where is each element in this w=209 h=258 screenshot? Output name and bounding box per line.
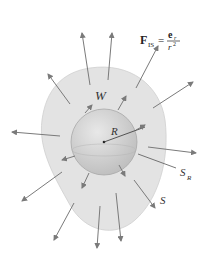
gauss-law-diagram: W R S R S F IS = e r r 2 — [0, 0, 209, 258]
outer-surface-label: S — [160, 194, 166, 206]
svg-text:F: F — [140, 33, 147, 47]
svg-text:=: = — [158, 34, 164, 46]
sphere-surface-sub: R — [186, 174, 192, 182]
svg-text:r: r — [168, 42, 172, 52]
svg-text:2: 2 — [173, 41, 176, 47]
radius-r-label: R — [110, 125, 118, 137]
svg-text:e: e — [168, 29, 173, 40]
svg-text:IS: IS — [148, 41, 154, 49]
region-w-label: W — [95, 88, 107, 103]
flux-formula: F IS = e r r 2 — [140, 29, 180, 52]
sphere-surface-label: S — [180, 166, 186, 178]
